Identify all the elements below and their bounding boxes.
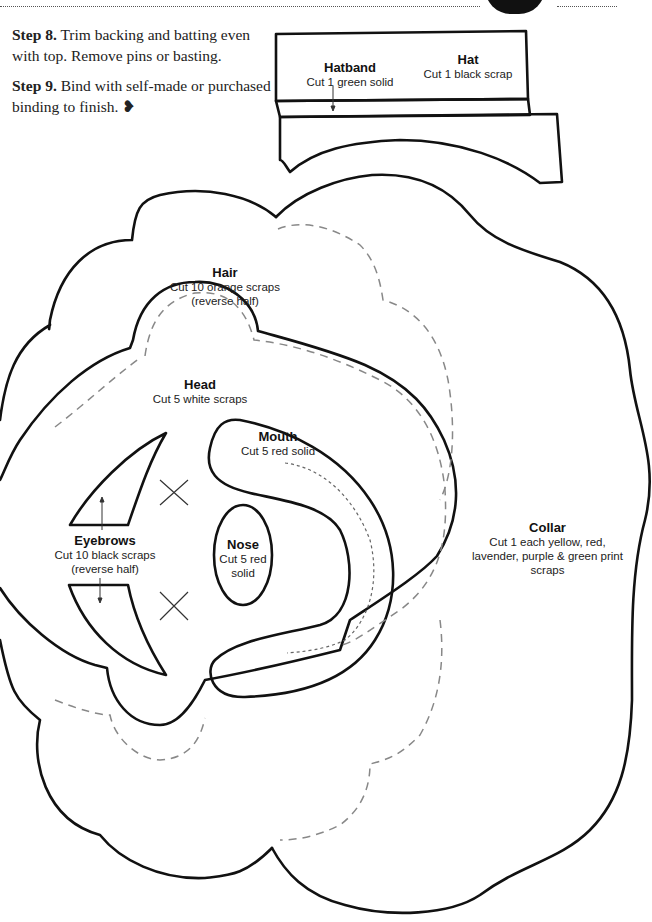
eye-placement-x-bottom [160, 592, 188, 620]
label-nose: Nose Cut 5 red solid [213, 537, 273, 580]
label-hair: Hair Cut 10 orange scraps (reverse half) [160, 265, 290, 308]
label-eyebrows: Eyebrows Cut 10 black scraps (reverse ha… [45, 533, 165, 576]
label-mouth: Mouth Cut 5 red solid [228, 429, 328, 458]
eye-placement-x-top [160, 480, 188, 505]
label-hatband: Hatband Cut 1 green solid [290, 60, 410, 89]
head-outline [0, 282, 456, 725]
hair-seam-line [278, 225, 453, 500]
label-collar: Collar Cut 1 each yellow, red, lavender,… [465, 520, 630, 577]
pattern-diagram [0, 0, 652, 922]
label-hat: Hat Cut 1 black scrap [408, 52, 528, 81]
collar-seam-line [280, 620, 442, 840]
label-head: Head Cut 5 white scraps [145, 377, 255, 406]
hat-brim-outline [280, 114, 562, 183]
mouth-inner-stitch-line [285, 463, 374, 653]
head-seam-line [145, 293, 446, 645]
eyebrow-top-outline [70, 433, 166, 525]
